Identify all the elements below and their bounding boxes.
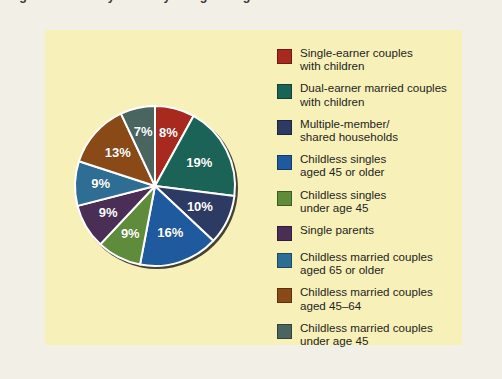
legend-item-label: Childless singles aged 45 or older [300,150,386,178]
legend-item-label: Childless singles under age 45 [300,186,386,214]
pie-slice-label: 13% [105,145,131,160]
pie-slice-label: 8% [159,125,178,140]
pie-slice-label: 9% [121,226,140,241]
legend-item[interactable]: Childless singles under age 45 [277,186,462,214]
pie-chart: 8%19%10%16%9%9%9%13%7% [45,30,285,345]
legend-item[interactable]: Dual-earner married couples with childre… [277,79,462,107]
legend-swatch-childless-married-under-45 [277,324,292,339]
legend-swatch-single-parents [277,226,292,241]
legend-swatch-childless-singles-45-or-older [277,155,292,170]
legend-item-label: Childless married couples under age 45 [300,319,433,347]
figure-caption: Figure 1 Diversity of family living arra… [0,0,502,14]
figure-caption-text: Figure 1 Diversity of family living arra… [8,0,417,3]
legend-item[interactable]: Childless married couples aged 65 or old… [277,248,462,276]
legend-item-label: Multiple-member/ shared households [300,115,398,143]
legend-item-label: Single parents [300,221,374,236]
pie-slice-label: 16% [157,225,183,240]
legend-swatch-multiple-member-households [277,120,292,135]
legend-item[interactable]: Single-earner couples with children [277,44,462,72]
legend-swatch-childless-singles-under-45 [277,191,292,206]
pie-slice-label: 10% [187,199,213,214]
pie-slice-label: 19% [186,155,212,170]
chart-legend: Single-earner couples with childrenDual-… [277,44,462,354]
legend-item[interactable]: Childless singles aged 45 or older [277,150,462,178]
legend-item[interactable]: Childless married couples aged 45–64 [277,283,462,311]
legend-item-label: Childless married couples aged 65 or old… [300,248,433,276]
figure-panel: 8%19%10%16%9%9%9%13%7% Single-earner cou… [45,30,462,345]
legend-item[interactable]: Childless married couples under age 45 [277,319,462,347]
pie-slice-label: 9% [99,205,118,220]
legend-swatch-dual-earner-married-couples [277,84,292,99]
legend-item[interactable]: Single parents [277,221,462,241]
legend-item-label: Childless married couples aged 45–64 [300,283,433,311]
legend-item[interactable]: Multiple-member/ shared households [277,115,462,143]
legend-swatch-childless-married-65-or-older [277,253,292,268]
legend-swatch-single-earner-couples [277,49,292,64]
pie-chart-svg: 8%19%10%16%9%9%9%13%7% [45,30,285,345]
pie-slice-label: 7% [134,124,153,139]
pie-slice-label: 9% [91,176,110,191]
legend-item-label: Single-earner couples with children [300,44,413,72]
legend-swatch-childless-married-45-64 [277,288,292,303]
legend-item-label: Dual-earner married couples with childre… [300,79,447,107]
